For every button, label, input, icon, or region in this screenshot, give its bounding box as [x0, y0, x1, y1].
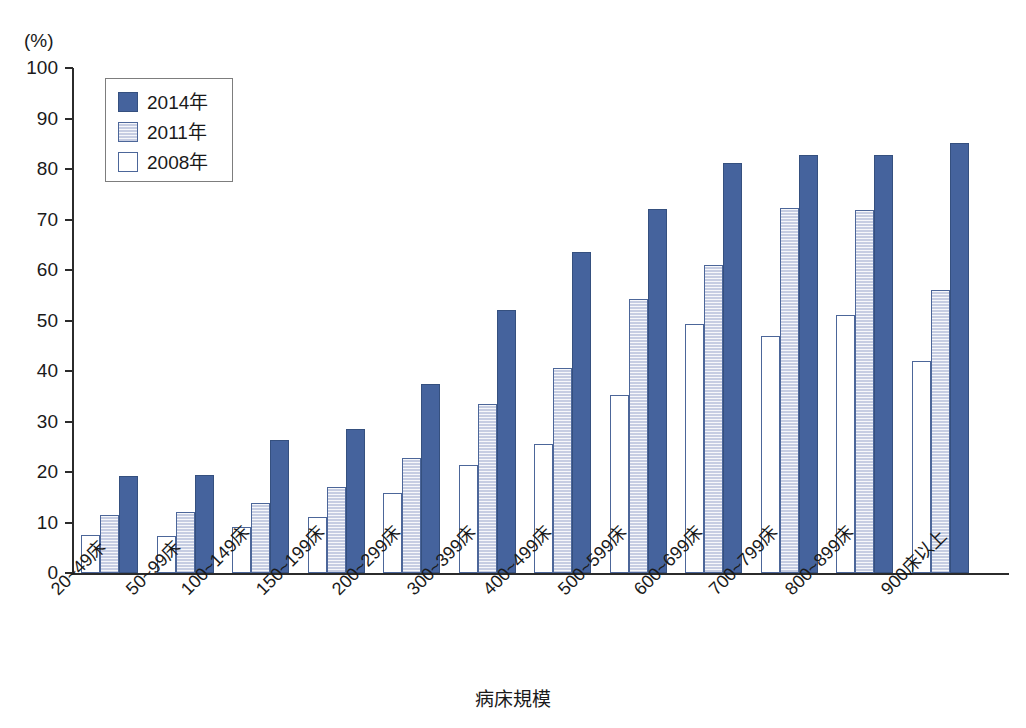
- y-axis-tick: [65, 421, 73, 423]
- bar-group: [534, 68, 591, 573]
- y-axis-tick-label: 50: [14, 311, 58, 330]
- legend-label: 2008年: [147, 153, 208, 172]
- y-axis-tick: [65, 168, 73, 170]
- bar-2011-500~599床[interactable]: [629, 299, 648, 573]
- bar-group: [912, 68, 969, 573]
- bar-2011-800~899床[interactable]: [855, 210, 874, 573]
- y-axis-tick: [65, 320, 73, 322]
- bar-2011-400~499床[interactable]: [553, 368, 572, 573]
- bar-group: [383, 68, 440, 573]
- bar-2011-300~399床[interactable]: [478, 404, 497, 573]
- legend-item-y2011[interactable]: 2011年: [118, 117, 232, 147]
- x-axis-title: 病床規模: [0, 684, 1026, 711]
- bar-2014-700~799床[interactable]: [799, 155, 818, 573]
- bar-2011-700~799床[interactable]: [780, 208, 799, 573]
- bar-2014-300~399床[interactable]: [497, 310, 516, 573]
- bar-2014-200~299床[interactable]: [421, 384, 440, 573]
- y-axis-tick: [65, 118, 73, 120]
- y-axis-tick-label: 70: [14, 210, 58, 229]
- legend-label: 2014年: [147, 93, 208, 112]
- legend-item-y2014[interactable]: 2014年: [118, 87, 232, 117]
- bar-2011-150~199床[interactable]: [327, 487, 346, 573]
- y-axis-tick: [65, 269, 73, 271]
- bar-group: [308, 68, 365, 573]
- bar-group: [836, 68, 893, 573]
- y-axis-tick-label: 100: [14, 58, 58, 77]
- bar-2014-500~599床[interactable]: [648, 209, 667, 573]
- y-axis-tick-label: 80: [14, 159, 58, 178]
- bar-chart: (%) 1009080706050403020100 2014年2011年200…: [0, 0, 1026, 728]
- bar-2011-200~299床[interactable]: [402, 458, 421, 573]
- bar-2014-900床以上[interactable]: [950, 143, 969, 573]
- bar-2014-20~49床[interactable]: [119, 476, 138, 573]
- y-axis-unit-label: (%): [24, 30, 54, 52]
- legend-swatch-icon-y2014: [118, 92, 138, 112]
- y-axis-tick: [65, 370, 73, 372]
- y-axis-tick-label: 10: [14, 513, 58, 532]
- y-axis-tick-label: 30: [14, 412, 58, 431]
- chart-legend: 2014年2011年2008年: [105, 78, 233, 182]
- bar-2014-400~499床[interactable]: [572, 252, 591, 573]
- bar-2014-600~699床[interactable]: [723, 163, 742, 573]
- legend-label: 2011年: [147, 123, 207, 142]
- legend-swatch-icon-y2011: [118, 122, 138, 142]
- y-axis-tick: [65, 219, 73, 221]
- legend-item-y2008[interactable]: 2008年: [118, 147, 232, 177]
- legend-swatch-icon-y2008: [118, 152, 138, 172]
- y-axis-tick: [65, 522, 73, 524]
- y-axis-tick-label: 40: [14, 361, 58, 380]
- bar-2008-300~399床[interactable]: [459, 465, 478, 573]
- bar-2011-100~149床[interactable]: [251, 503, 270, 573]
- bar-group: [610, 68, 667, 573]
- y-axis-tick: [65, 67, 73, 69]
- bar-2011-50~99床[interactable]: [176, 512, 195, 573]
- bar-group: [232, 68, 289, 573]
- bar-2014-800~899床[interactable]: [874, 155, 893, 573]
- y-axis-tick-label: 20: [14, 462, 58, 481]
- y-axis-tick-label: 60: [14, 260, 58, 279]
- bar-group: [761, 68, 818, 573]
- y-axis-tick-label: 90: [14, 109, 58, 128]
- bar-group: [459, 68, 516, 573]
- bar-2011-600~699床[interactable]: [704, 265, 723, 573]
- y-axis-tick: [65, 471, 73, 473]
- bar-group: [685, 68, 742, 573]
